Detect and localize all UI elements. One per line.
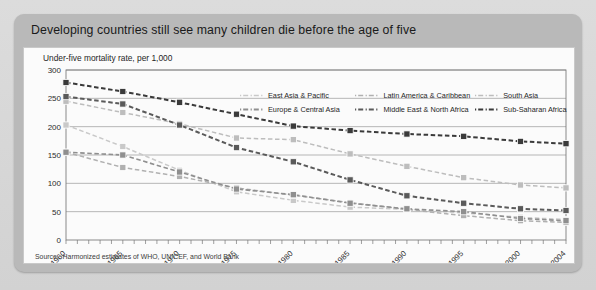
legend-label: Latin America & Caribbean: [383, 91, 470, 100]
series-line: [66, 152, 566, 221]
page-background: Developing countries still see many chil…: [0, 0, 596, 290]
legend-swatch: [239, 92, 265, 99]
plot-area: 0501001502002503001960196519701975198019…: [24, 48, 574, 263]
legend-label: South Asia: [503, 91, 538, 100]
data-point-marker: [517, 182, 523, 188]
data-point-marker: [347, 177, 353, 183]
data-point-marker: [517, 206, 523, 212]
data-point-marker: [120, 152, 126, 158]
data-point-marker: [461, 200, 467, 206]
data-point-marker: [347, 200, 353, 206]
data-point-marker: [404, 131, 410, 137]
data-point-marker: [290, 123, 296, 129]
y-axis-tick-label: 250: [48, 94, 62, 103]
y-axis-tick-label: 150: [48, 151, 62, 160]
y-axis-tick-label: 100: [48, 179, 62, 188]
data-point-marker: [120, 101, 126, 107]
x-axis-tick-label-text: 1980: [276, 249, 295, 263]
data-point-marker: [461, 175, 467, 181]
data-point-marker: [347, 128, 353, 134]
legend-item[interactable]: Europe & Central Asia: [239, 102, 350, 116]
y-axis-tick-label: 200: [48, 123, 62, 132]
data-point-marker: [177, 99, 183, 105]
data-point-marker: [120, 164, 126, 170]
data-point-marker: [404, 193, 410, 199]
legend-swatch: [354, 92, 380, 99]
x-axis-tick-label: 1985: [333, 249, 352, 263]
chart-legend: East Asia & PacificLatin America & Carib…: [239, 88, 569, 116]
x-axis-tick-label: 2000: [503, 249, 522, 263]
legend-item[interactable]: Sub-Saharan Africa: [474, 102, 569, 116]
legend-item[interactable]: Latin America & Caribbean: [354, 88, 470, 102]
data-point-marker: [233, 135, 239, 141]
data-point-marker: [563, 218, 569, 224]
chart-panel: Under-five mortality rate, per 1,000 050…: [23, 47, 575, 264]
data-point-marker: [63, 122, 69, 128]
data-point-marker: [404, 206, 410, 212]
data-point-marker: [517, 215, 523, 221]
data-point-marker: [177, 169, 183, 175]
data-point-marker: [347, 151, 353, 157]
data-point-marker: [563, 207, 569, 213]
y-axis-tick-label: 50: [52, 208, 61, 217]
data-point-marker: [290, 137, 296, 143]
y-axis-tick-label: 300: [48, 66, 62, 75]
data-point-marker: [404, 163, 410, 169]
x-axis-tick-label: 1990: [390, 249, 409, 263]
data-point-marker: [63, 79, 69, 85]
data-point-marker: [233, 186, 239, 192]
x-axis-tick-label-text: 2000: [503, 249, 522, 263]
data-point-marker: [63, 149, 69, 155]
card-title: Developing countries still see many chil…: [31, 23, 416, 37]
line-chart: 0501001502002503001960196519701975198019…: [24, 48, 574, 263]
data-point-marker: [233, 145, 239, 151]
x-axis-tick-label: 1995: [447, 249, 466, 263]
data-point-marker: [563, 141, 569, 147]
data-point-marker: [120, 109, 126, 115]
x-axis-tick-label-text: 1990: [390, 249, 409, 263]
data-point-marker: [290, 192, 296, 198]
legend-item[interactable]: East Asia & Pacific: [239, 88, 350, 102]
legend-swatch: [239, 106, 265, 113]
legend-label: Middle East & North Africa: [383, 105, 468, 114]
data-point-marker: [120, 143, 126, 149]
data-point-marker: [290, 159, 296, 165]
legend-label: Europe & Central Asia: [268, 105, 340, 114]
x-axis-tick-label: 2004: [549, 249, 568, 263]
data-point-marker: [177, 122, 183, 128]
x-axis-tick-label-text: 1985: [333, 249, 352, 263]
y-axis-tick-label: 0: [57, 236, 62, 245]
legend-label: Sub-Saharan Africa: [503, 105, 566, 114]
source-note: Source : Harmonized estimates of WHO, UN…: [35, 253, 239, 260]
x-axis-tick-label: 1980: [276, 249, 295, 263]
legend-item[interactable]: South Asia: [474, 88, 569, 102]
data-point-marker: [120, 88, 126, 94]
x-axis-tick-label-text: 1995: [447, 249, 466, 263]
legend-swatch: [354, 106, 380, 113]
legend-swatch: [474, 106, 500, 113]
legend-swatch: [474, 92, 500, 99]
data-point-marker: [461, 133, 467, 139]
data-point-marker: [63, 94, 69, 100]
legend-item[interactable]: Middle East & North Africa: [354, 102, 470, 116]
legend-label: East Asia & Pacific: [268, 91, 329, 100]
data-point-marker: [517, 138, 523, 144]
chart-card: Developing countries still see many chil…: [14, 14, 582, 272]
x-axis-tick-label-text: 2004: [549, 249, 568, 263]
data-point-marker: [563, 185, 569, 191]
data-point-marker: [461, 209, 467, 215]
